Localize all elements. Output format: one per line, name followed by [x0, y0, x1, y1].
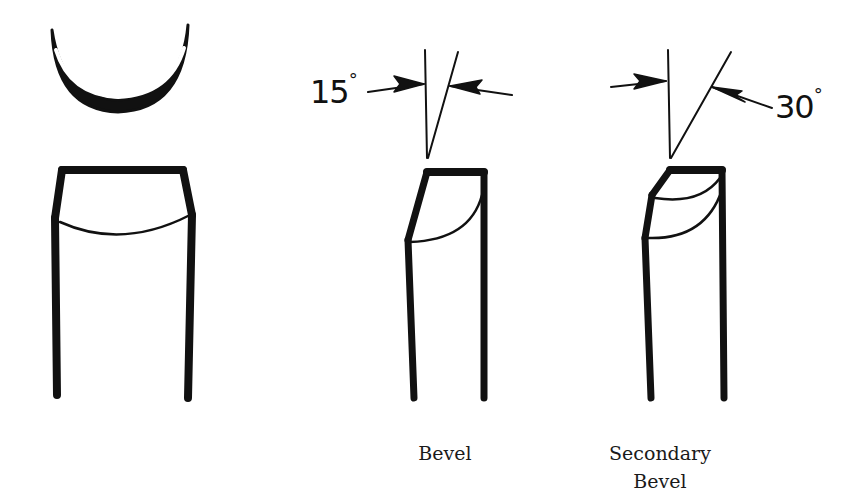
- secondary-bevel-angle-label: 30°: [775, 88, 822, 126]
- gouge-front-view: [55, 170, 192, 398]
- secondary-bevel-caption-line1: Secondary: [595, 439, 725, 467]
- bevel-angle-indicator: [368, 50, 512, 158]
- secondary-bevel-caption-line2: Bevel: [595, 467, 725, 495]
- bevel-tool: [408, 172, 484, 398]
- secondary-bevel-angle-value: 30: [775, 88, 814, 126]
- bevel-angle-value: 15: [310, 73, 349, 111]
- degree-symbol: °: [814, 84, 822, 105]
- gouge-cross-section: [52, 25, 188, 112]
- secondary-bevel-caption: Secondary Bevel: [595, 439, 725, 495]
- bevel-caption: Bevel: [400, 439, 490, 467]
- gouge-bevel-diagram: [0, 0, 868, 496]
- secondary-bevel-angle-indicator: [611, 50, 772, 158]
- secondary-bevel-tool: [645, 170, 724, 398]
- degree-symbol: °: [349, 69, 357, 90]
- bevel-angle-label: 15°: [310, 73, 357, 111]
